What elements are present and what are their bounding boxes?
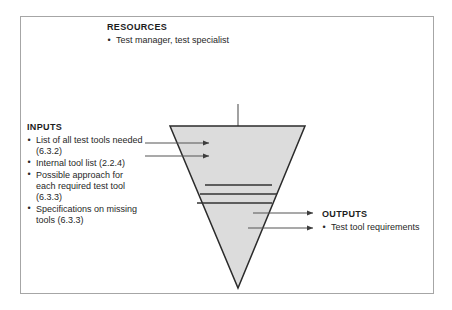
list-item: List of all test tools needed (6.3.2): [27, 135, 145, 157]
outputs-heading: OUTPUTS: [322, 208, 428, 219]
list-item: Specifications on missing tools (6.3.3): [27, 204, 145, 226]
list-item: Possible approach for each required test…: [27, 170, 145, 204]
resources-heading: RESOURCES: [107, 21, 307, 32]
list-item: Test tool requirements: [322, 222, 434, 233]
inputs-heading: INPUTS: [27, 121, 139, 132]
list-item: Internal tool list (2.2.4): [27, 158, 145, 169]
outputs-list: Test tool requirements: [322, 222, 434, 233]
resources-list: Test manager, test specialist: [107, 35, 317, 46]
list-item: Test manager, test specialist: [107, 35, 317, 46]
outputs-block: OUTPUTS Test tool requirements: [322, 208, 434, 234]
inputs-list: List of all test tools needed (6.3.2) In…: [27, 135, 145, 226]
resources-block: RESOURCES Test manager, test specialist: [107, 21, 317, 47]
inputs-block: INPUTS List of all test tools needed (6.…: [27, 121, 145, 227]
